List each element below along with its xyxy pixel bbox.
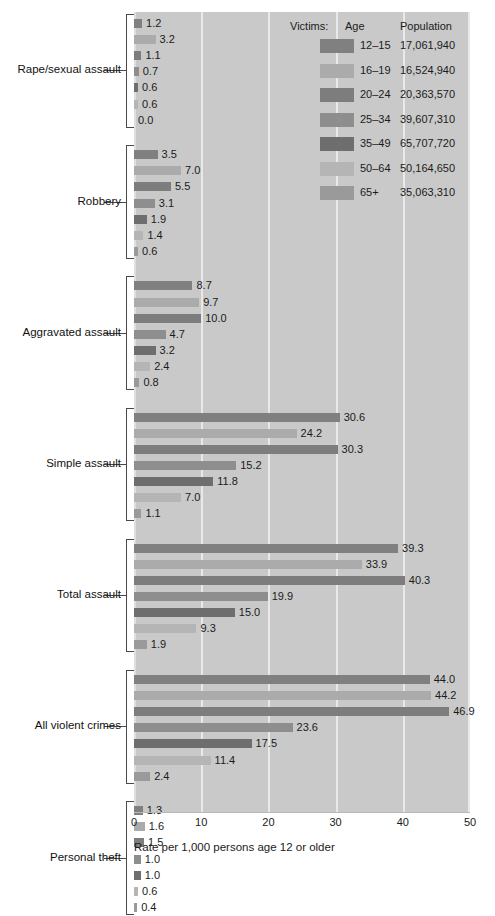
bar[interactable]: [134, 166, 181, 175]
bar[interactable]: [134, 281, 192, 290]
bar-row[interactable]: 0.6: [134, 884, 470, 900]
bar-row[interactable]: 30.6: [134, 410, 470, 426]
bar[interactable]: [134, 640, 147, 649]
bar[interactable]: [134, 493, 181, 502]
bar[interactable]: [134, 298, 199, 307]
bar[interactable]: [134, 806, 143, 815]
bar[interactable]: [134, 51, 141, 60]
legend-row[interactable]: 16–1916,524,940: [290, 62, 490, 87]
group-bracket: [126, 670, 134, 784]
bar[interactable]: [134, 182, 171, 191]
bar[interactable]: [134, 544, 398, 553]
bar[interactable]: [134, 35, 156, 44]
bar[interactable]: [134, 903, 137, 912]
bar[interactable]: [134, 150, 158, 159]
bar[interactable]: [134, 608, 235, 617]
bar-row[interactable]: 11.8: [134, 474, 470, 490]
bar-row[interactable]: 3.2: [134, 343, 470, 359]
legend-row[interactable]: 12–1517,061,940: [290, 37, 490, 62]
bar[interactable]: [134, 887, 138, 896]
bar-row[interactable]: 9.7: [134, 295, 470, 311]
bar-row[interactable]: 1.9: [134, 212, 470, 228]
bar-row[interactable]: 15.0: [134, 605, 470, 621]
bar-row[interactable]: 2.4: [134, 769, 470, 785]
bar-row[interactable]: 33.9: [134, 557, 470, 573]
bar[interactable]: [134, 413, 340, 422]
legend-population-value: 39,607,310: [400, 113, 455, 125]
bar[interactable]: [134, 215, 147, 224]
bar[interactable]: [134, 83, 138, 92]
bar[interactable]: [134, 576, 405, 585]
bar-row[interactable]: 7.0: [134, 490, 470, 506]
bar[interactable]: [134, 429, 297, 438]
bar[interactable]: [134, 772, 150, 781]
bar-row[interactable]: 15.2: [134, 458, 470, 474]
bar-row[interactable]: 1.4: [134, 228, 470, 244]
legend-row[interactable]: 20–2420,363,570: [290, 86, 490, 111]
bar-row[interactable]: 1.9: [134, 637, 470, 653]
bar-row[interactable]: 39.3: [134, 541, 470, 557]
bar-value-label: 46.9: [453, 705, 474, 717]
legend-row[interactable]: 65+35,063,310: [290, 184, 490, 209]
legend-row[interactable]: 25–3439,607,310: [290, 111, 490, 136]
bar-row[interactable]: 1.0: [134, 852, 470, 868]
bar[interactable]: [134, 509, 141, 518]
bar[interactable]: [134, 461, 236, 470]
bar[interactable]: [134, 855, 141, 864]
bar[interactable]: [134, 100, 138, 109]
bar[interactable]: [134, 592, 268, 601]
group-label: Rape/sexual assault: [17, 63, 121, 75]
legend-row[interactable]: 35–4965,707,720: [290, 135, 490, 160]
x-axis-title: Rate per 1,000 persons age 12 or older: [134, 841, 335, 853]
bar-row[interactable]: 0.8: [134, 375, 470, 391]
bar[interactable]: [134, 707, 449, 716]
bar[interactable]: [134, 346, 156, 355]
bar[interactable]: [134, 624, 196, 633]
bar-value-label: 44.0: [434, 673, 455, 685]
group-label: Robbery: [78, 195, 121, 207]
bar[interactable]: [134, 330, 166, 339]
bar[interactable]: [134, 314, 201, 323]
bar-row[interactable]: 19.9: [134, 589, 470, 605]
bar-row[interactable]: 0.4: [134, 900, 470, 916]
bar[interactable]: [134, 362, 150, 371]
bar-row[interactable]: 44.0: [134, 672, 470, 688]
legend-row[interactable]: 50–6450,164,650: [290, 160, 490, 185]
bar-row[interactable]: 10.0: [134, 311, 470, 327]
bar[interactable]: [134, 477, 213, 486]
bar[interactable]: [134, 247, 138, 256]
bar[interactable]: [134, 739, 252, 748]
bar-row[interactable]: 30.3: [134, 442, 470, 458]
bar-value-label: 7.0: [185, 491, 200, 503]
bar-row[interactable]: 2.4: [134, 359, 470, 375]
bar-row[interactable]: 23.6: [134, 720, 470, 736]
bar[interactable]: [134, 756, 211, 765]
bar[interactable]: [134, 675, 430, 684]
bar[interactable]: [134, 231, 143, 240]
bar[interactable]: [134, 199, 155, 208]
bar-row[interactable]: 46.9: [134, 704, 470, 720]
bar-row[interactable]: 24.2: [134, 426, 470, 442]
bar[interactable]: [134, 871, 141, 880]
bar-row[interactable]: 1.6: [134, 819, 470, 835]
bar-value-label: 2.4: [154, 360, 169, 372]
bar-row[interactable]: 1.0: [134, 868, 470, 884]
legend-age-label: 12–15: [360, 39, 391, 51]
bar-row[interactable]: 44.2: [134, 688, 470, 704]
bar[interactable]: [134, 723, 293, 732]
bar-row[interactable]: 9.3: [134, 621, 470, 637]
bar-row[interactable]: 1.1: [134, 506, 470, 522]
bar[interactable]: [134, 691, 431, 700]
bar-row[interactable]: 11.4: [134, 753, 470, 769]
bar-row[interactable]: 8.7: [134, 278, 470, 294]
bar[interactable]: [134, 19, 142, 28]
bar-row[interactable]: 40.3: [134, 573, 470, 589]
bar[interactable]: [134, 560, 362, 569]
bar-row[interactable]: 17.5: [134, 736, 470, 752]
bar[interactable]: [134, 67, 139, 76]
bar[interactable]: [134, 445, 338, 454]
bar[interactable]: [134, 378, 139, 387]
bar-row[interactable]: 4.7: [134, 327, 470, 343]
bar-row[interactable]: 0.6: [134, 244, 470, 260]
bar-value-label: 24.2: [301, 427, 322, 439]
